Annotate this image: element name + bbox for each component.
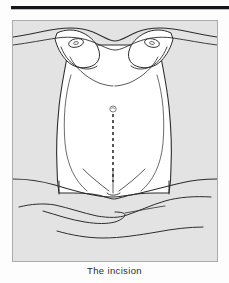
anatomical-illustration <box>13 21 217 261</box>
drape-fold-4 <box>125 206 165 213</box>
drape-fold-1 <box>19 197 211 218</box>
figure-page: The incision <box>0 0 229 283</box>
header-rule-shadow <box>11 9 229 10</box>
umbilicus <box>110 106 116 112</box>
drape-fold-3 <box>57 227 203 238</box>
figure-frame <box>12 20 218 262</box>
figure-caption: The incision <box>0 265 229 276</box>
abdomen-shape <box>57 45 172 199</box>
upper-drape-edge <box>13 28 217 41</box>
